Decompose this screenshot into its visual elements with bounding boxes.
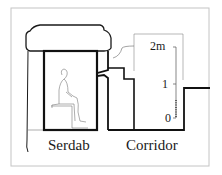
capstone: [26, 25, 111, 51]
scale-label-1: 1: [162, 77, 168, 91]
scale-label-0: 0: [165, 111, 171, 125]
curve-guide: [113, 46, 134, 58]
serdab-label: Serdab: [48, 137, 90, 153]
corridor-floor: [108, 88, 210, 130]
scale-label-2m: 2m: [150, 39, 166, 53]
serdab-chamber: [44, 51, 97, 130]
slot-wall-lower: [97, 75, 108, 130]
left-wall-outline: [27, 51, 28, 152]
serdab-section-diagram: 2m 1 0 Serdab Corridor: [0, 0, 222, 175]
corridor-step-profile: [108, 68, 134, 130]
slot-wall-upper: [97, 51, 108, 73]
corridor-label: Corridor: [126, 137, 178, 153]
seated-statue-figure: [51, 69, 88, 128]
